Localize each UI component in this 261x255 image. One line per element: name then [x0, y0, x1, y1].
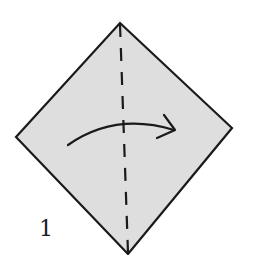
step-number: 1	[39, 218, 53, 240]
